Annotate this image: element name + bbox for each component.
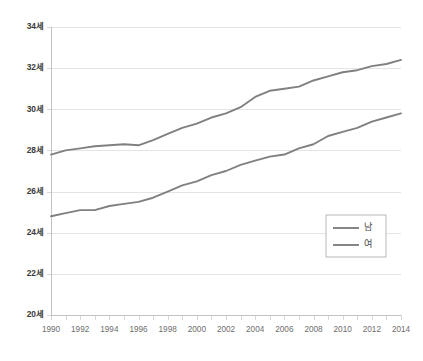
x-tick-label-2010: 2010 <box>334 325 353 334</box>
y-tick-label-26: 26세 <box>27 186 44 196</box>
legend-box <box>326 215 386 257</box>
x-tick-label-2012: 2012 <box>363 325 382 334</box>
x-tick-label-2002: 2002 <box>217 325 236 334</box>
y-tick-label-28: 28세 <box>27 145 44 155</box>
legend-label-female[interactable]: 여 <box>364 238 372 249</box>
x-tick-label-2014: 2014 <box>392 325 411 334</box>
data-series <box>51 60 401 216</box>
y-axis-tick-labels: 20세22세24세26세28세30세32세34세 <box>27 21 51 319</box>
y-tick-label-32: 32세 <box>27 62 44 72</box>
series-line-female <box>51 113 401 216</box>
x-tick-label-1994: 1994 <box>100 325 119 334</box>
x-tick-label-1992: 1992 <box>71 325 90 334</box>
x-tick-label-2004: 2004 <box>246 325 265 334</box>
y-tick-label-24: 24세 <box>27 227 44 237</box>
legend-label-male[interactable]: 남 <box>364 222 373 232</box>
x-tick-label-2008: 2008 <box>304 325 323 334</box>
x-axis-tick-labels: 1990199219941996199820002002200420062008… <box>42 325 411 334</box>
line-chart: 20세22세24세26세28세30세32세34세 199019921994199… <box>0 0 423 361</box>
x-tick-label-1990: 1990 <box>42 325 61 334</box>
x-tick-label-1998: 1998 <box>159 325 178 334</box>
y-tick-label-22: 22세 <box>27 268 44 278</box>
y-tick-label-20: 20세 <box>27 309 44 319</box>
x-tick-label-1996: 1996 <box>129 325 148 334</box>
chart-canvas: 20세22세24세26세28세30세32세34세 199019921994199… <box>0 0 423 361</box>
series-line-male <box>51 60 401 155</box>
y-tick-label-34: 34세 <box>27 21 44 31</box>
y-tick-label-30: 30세 <box>27 104 44 114</box>
x-tick-label-2000: 2000 <box>188 325 207 334</box>
chart-legend[interactable]: 남여 <box>326 215 386 257</box>
x-tick-label-2006: 2006 <box>275 325 294 334</box>
